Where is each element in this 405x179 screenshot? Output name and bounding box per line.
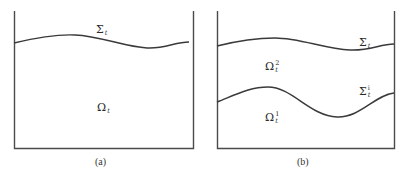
omega-symbol: Ω <box>265 112 274 123</box>
panel-a-domain-label: Ωt <box>97 102 112 113</box>
sigma-symbol: Σ <box>359 86 367 97</box>
omega-symbol: Ω <box>265 61 274 72</box>
sigma-symbol: Σ <box>359 37 367 48</box>
omega-symbol: Ω <box>97 102 106 113</box>
panel-a-caption: (a) <box>95 157 106 167</box>
panel-b-caption: (b) <box>297 157 309 167</box>
subscript: t <box>105 30 108 37</box>
subscript: t <box>368 92 371 99</box>
panel-b-top-boundary-label: Σt <box>359 37 373 48</box>
subscript: t <box>275 118 278 125</box>
panel-a-free-surface-curve <box>14 35 189 48</box>
two-panel-domain-figure: Σt Ωt (a) Σt Σit Ω2t Ω1t (b) <box>0 0 405 179</box>
panel-a-boundary-label: Σt <box>96 24 110 35</box>
subscript: t <box>368 43 371 50</box>
panel-b-lower-domain-label: Ω1t <box>265 112 280 123</box>
figure-drawing <box>0 0 405 179</box>
panel-b-interface-label: Σit <box>359 86 373 97</box>
subscript: t <box>107 108 110 115</box>
panel-b-container <box>218 11 395 149</box>
subscript: t <box>275 67 278 74</box>
panel-b-upper-domain-label: Ω2t <box>265 61 280 72</box>
sigma-symbol: Σ <box>96 24 104 35</box>
